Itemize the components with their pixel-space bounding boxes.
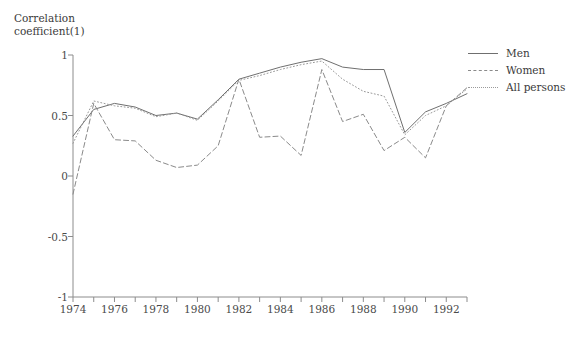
legend-line-dashed-icon [468, 65, 498, 75]
x-tick-label: 1980 [184, 303, 211, 315]
y-tick-label: 0 [34, 170, 68, 182]
legend-item-men: Men [468, 44, 568, 61]
x-tick-label: 1974 [60, 303, 87, 315]
y-tick-label: -0.5 [34, 231, 68, 243]
y-tick-label: 0.5 [34, 110, 68, 122]
x-tick-label: 1982 [226, 303, 253, 315]
legend-label-women: Women [506, 64, 545, 76]
x-tick-label: 1976 [101, 303, 128, 315]
x-tick-label: 1988 [350, 303, 377, 315]
chart-figure: Correlation coefficient(1) 10.50-0.5-1 1… [0, 0, 572, 337]
legend-item-women: Women [468, 61, 568, 78]
legend-line-solid-icon [468, 48, 498, 58]
legend-line-dotted-icon [468, 82, 498, 92]
x-tick-label: 1992 [433, 303, 460, 315]
series-line-all-persons [73, 61, 467, 143]
legend-label-men: Men [506, 47, 530, 59]
x-tick-label: 1986 [308, 303, 335, 315]
y-tick-labels: 10.50-0.5-1 [30, 0, 68, 337]
x-tick-label: 1984 [267, 303, 294, 315]
series-line-men [73, 59, 467, 136]
legend-label-all-persons: All persons [506, 81, 565, 93]
chart-legend: Men Women All persons [468, 44, 568, 95]
y-tick-label: 1 [34, 49, 68, 61]
legend-item-all-persons: All persons [468, 78, 568, 95]
x-tick-label: 1990 [391, 303, 418, 315]
y-tick-label: -1 [34, 291, 68, 303]
x-tick-label: 1978 [143, 303, 170, 315]
x-tick-labels: 1974197619781980198219841986198819901992 [0, 303, 572, 323]
